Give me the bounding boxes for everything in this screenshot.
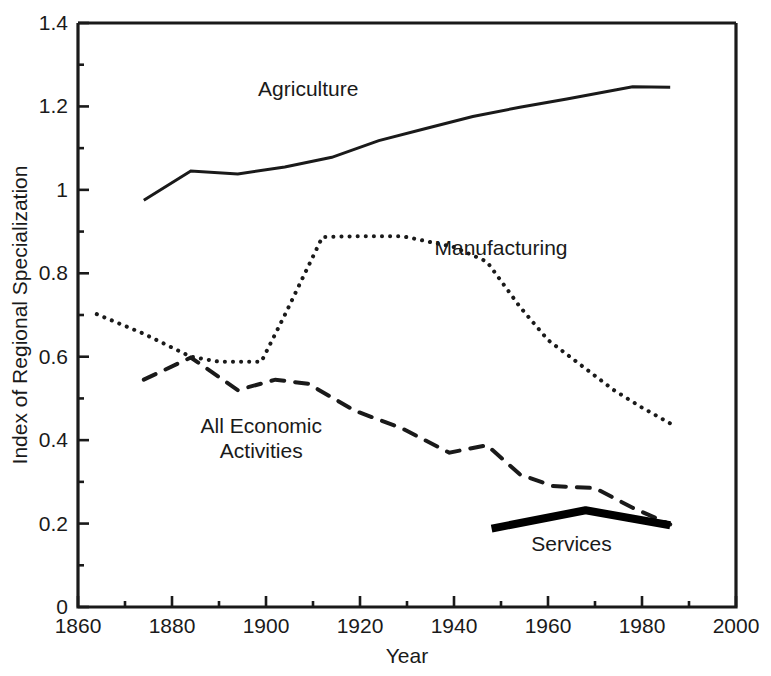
x-tick-label: 1900 (243, 614, 290, 637)
series-label-agriculture: Agriculture (258, 77, 358, 100)
x-tick-label: 1960 (525, 614, 572, 637)
y-axis-title: Index of Regional Specialization (8, 166, 31, 465)
y-tick-label: 1 (56, 178, 68, 201)
y-tick-label: 0.6 (39, 345, 68, 368)
line-chart: 18601880190019201940196019802000 00.20.4… (0, 0, 771, 676)
x-tick-label: 1940 (431, 614, 478, 637)
x-tick-label: 1920 (337, 614, 384, 637)
series-label-manufacturing: Manufacturing (434, 236, 567, 259)
series-label-services: Services (531, 532, 612, 555)
x-tick-label: 1880 (149, 614, 196, 637)
x-tick-label: 2000 (713, 614, 760, 637)
x-tick-label: 1980 (619, 614, 666, 637)
chart-background (0, 0, 771, 676)
y-tick-label: 0.2 (39, 512, 68, 535)
x-axis-title: Year (386, 644, 428, 667)
y-tick-label: 0 (56, 595, 68, 618)
y-tick-label: 0.4 (39, 428, 69, 451)
y-tick-label: 0.8 (39, 261, 68, 284)
y-tick-label: 1.2 (39, 94, 68, 117)
chart-figure: 18601880190019201940196019802000 00.20.4… (0, 0, 771, 676)
y-tick-label: 1.4 (39, 11, 69, 34)
